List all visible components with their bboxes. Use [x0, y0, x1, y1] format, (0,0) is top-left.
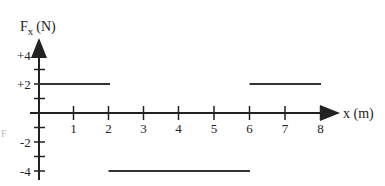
x-axis-label: x (m)	[343, 106, 374, 122]
y-tick-label: -2	[20, 135, 31, 150]
x-tick-label: 2	[105, 121, 112, 136]
x-tick-label: 6	[246, 121, 253, 136]
x-tick-label: 4	[175, 121, 182, 136]
y-tick-label: +2	[17, 77, 31, 92]
x-tick-label: 7	[282, 121, 289, 136]
x-tick-label: 1	[70, 121, 77, 136]
force-position-graph: +4 +2 -2 -4 1 2 3 4 5 6 7 8 Fx(N) x (m) …	[0, 0, 385, 186]
x-tick-label: 3	[140, 121, 147, 136]
stray-mark: F	[1, 128, 7, 139]
y-tick-label: +4	[17, 48, 31, 63]
x-tick-label: 8	[317, 121, 324, 136]
x-tick-label: 5	[211, 121, 218, 136]
y-axis-label: Fx(N)	[20, 19, 56, 37]
y-tick-label: -4	[20, 164, 31, 179]
